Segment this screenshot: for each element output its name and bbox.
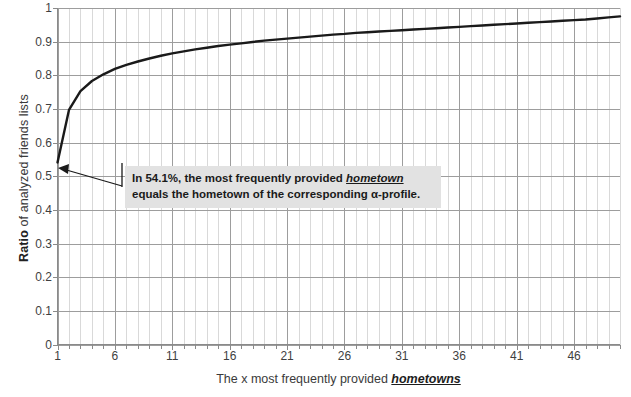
- x-tick-label: 46: [554, 350, 594, 362]
- x-tick-label: 1: [38, 350, 78, 362]
- y-axis-title: Ratio of analyzed friends lists: [17, 63, 37, 293]
- x-tick-label: 26: [324, 350, 364, 362]
- x-tick-label: 6: [95, 350, 135, 362]
- x-tick-label: 21: [267, 350, 307, 362]
- x-axis-title: The x most frequently provided hometowns: [57, 372, 620, 386]
- annotation-line1-plain: In 54.1%, the most frequently provided: [132, 172, 346, 184]
- y-axis-title-rest: of analyzed friends lists: [17, 94, 31, 230]
- x-tick-label: 11: [152, 350, 192, 362]
- annotation-line1-emphasis: hometown: [346, 172, 404, 184]
- x-tick-label: 16: [210, 350, 250, 362]
- annotation-line2: equals the hometown of the corresponding…: [132, 188, 420, 200]
- x-axis-title-plain: The x most frequently provided: [216, 372, 391, 386]
- x-axis-title-emphasis: hometowns: [391, 372, 460, 386]
- x-tick-label: 31: [382, 350, 422, 362]
- chart-figure: 00.10.20.30.40.50.60.70.80.91 1611162126…: [0, 0, 631, 397]
- x-tick-label: 36: [439, 350, 479, 362]
- x-tick-label: 41: [497, 350, 537, 362]
- y-axis-title-bold: Ratio: [17, 230, 31, 262]
- annotation-callout: In 54.1%, the most frequently provided h…: [125, 166, 441, 208]
